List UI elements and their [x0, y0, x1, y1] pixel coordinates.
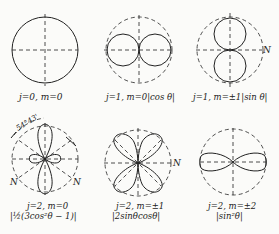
- label-j2-m1-line2: |2sinθcosθ|: [112, 211, 160, 221]
- label-j2-m2-line2: |sin²θ|: [216, 211, 243, 221]
- lobe-lower-right: [138, 163, 162, 192]
- angle-tick: [11, 132, 16, 138]
- panel-j2-m1: N: [104, 128, 182, 198]
- panel-j1-m0: [104, 15, 174, 85]
- panel-j0-m0: [12, 14, 78, 86]
- angle-label: 54°43': [14, 112, 40, 133]
- marker-N-right: N: [72, 177, 82, 187]
- label-j2-m0-line1: j=2, m=0: [27, 201, 68, 211]
- label-j2-m1-line1: j=2, m=±1: [116, 201, 164, 211]
- label-j1-m0: j=1, m=0|cos θ|: [106, 92, 175, 102]
- lobe-upper-left: [114, 134, 138, 163]
- label-j0-m0: j=0, m=0: [19, 92, 63, 102]
- label-j2-m0-line2: |½(3cos²θ − 1)|: [10, 211, 77, 221]
- panel-j1-m1: N: [196, 13, 272, 87]
- lobe-lower-left: [114, 163, 138, 192]
- panel-j2-m2: [200, 128, 267, 196]
- angular-distribution-figure: .ink { stroke:#222; fill:none; stroke-wi…: [0, 0, 279, 234]
- label-j2-m2-line1: j=2, m=±2: [208, 201, 256, 211]
- marker-N-left: N: [9, 177, 19, 187]
- lobe-upper-right: [138, 134, 162, 163]
- label-j1-m1: j=1, m=±1|sin θ|: [193, 92, 267, 102]
- marker-N: N: [262, 45, 272, 55]
- panel-j2-m0: 54°43' N N: [9, 112, 82, 195]
- marker-N: N: [172, 158, 182, 168]
